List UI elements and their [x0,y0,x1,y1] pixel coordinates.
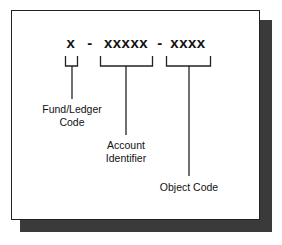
fund-ledger-label-line1: Fund/Ledger [42,103,102,116]
account-label-line1: Account [106,139,146,152]
fund-ledger-label: Fund/Ledger Code [42,103,102,129]
object-code-label: Object Code [160,181,218,194]
account-bracket [101,56,153,66]
account-label: Account Identifier [106,139,146,165]
object-bracket [167,56,211,66]
object-code-label-line1: Object Code [160,181,218,194]
account-label-line2: Identifier [106,152,146,165]
fund-ledger-label-line2: Code [42,116,102,129]
fund-ledger-bracket [66,56,78,66]
